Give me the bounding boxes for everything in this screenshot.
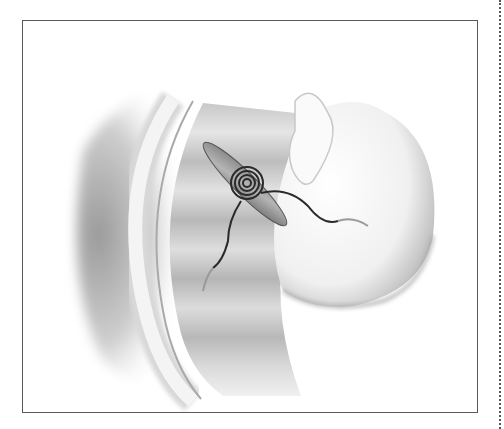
figure-caption-clipped	[22, 420, 478, 429]
page-margin-dotted-line	[499, 0, 501, 429]
medical-illustration	[23, 21, 478, 413]
figure-frame	[22, 20, 478, 413]
